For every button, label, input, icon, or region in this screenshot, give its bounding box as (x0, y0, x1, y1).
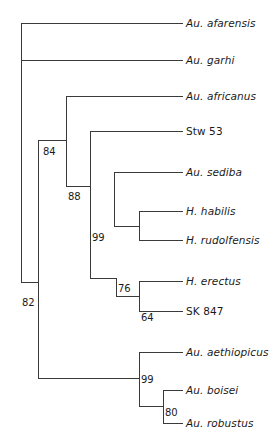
tip-label: Au. robustus (186, 418, 254, 429)
tip-label: Stw 53 (186, 126, 223, 137)
bootstrap-support-value: 80 (165, 408, 178, 418)
tip-label: Au. sediba (186, 167, 242, 178)
bootstrap-support-value: 82 (22, 298, 35, 308)
tip-label: Au. africanus (186, 91, 256, 102)
tip-label: H. erectus (186, 276, 241, 287)
bootstrap-support-value: 88 (68, 192, 81, 202)
bootstrap-support-value: 84 (43, 147, 56, 157)
bootstrap-support-value: 76 (118, 284, 131, 294)
tip-label: Au. afarensis (186, 18, 256, 29)
branch-lines (21, 23, 183, 423)
tip-label: Au. garhi (186, 55, 234, 66)
tip-label: Au. boisei (186, 385, 238, 396)
tip-label: SK 847 (186, 306, 224, 317)
bootstrap-support-value: 99 (92, 233, 105, 243)
tip-label: H. habilis (186, 206, 236, 217)
tree-branch-diagram (0, 0, 278, 447)
tip-label: H. rudolfensis (186, 235, 260, 246)
phylogenetic-tree-figure: Au. afarensisAu. garhiAu. africanusStw 5… (0, 0, 278, 447)
bootstrap-support-value: 99 (141, 375, 154, 385)
tip-label: Au. aethiopicus (186, 347, 269, 358)
bootstrap-support-value: 64 (141, 313, 154, 323)
